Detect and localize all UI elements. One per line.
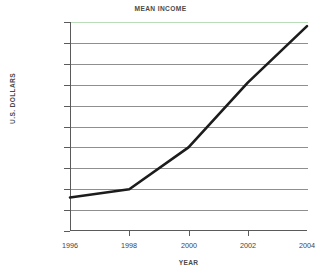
y-tick-mark-165000 [64, 64, 70, 65]
y-tick-mark-145000 [64, 147, 70, 148]
y-tick-mark-155000 [64, 106, 70, 107]
chart-figure: MEAN INCOME U.S. DOLLARS YEAR 125,000130… [0, 0, 321, 280]
x-tick-mark-1998 [129, 231, 130, 236]
line-series-mean-income [70, 26, 307, 197]
x-tick-label-2002: 2002 [227, 241, 268, 250]
y-tick-mark-170000 [64, 43, 70, 44]
x-tick-label-2004: 2004 [286, 241, 321, 250]
x-tick-label-1998: 1998 [109, 241, 150, 250]
x-tick-mark-2000 [189, 231, 190, 236]
y-tick-mark-130000 [64, 210, 70, 211]
y-tick-mark-135000 [64, 189, 70, 190]
x-axis-title: YEAR [84, 258, 293, 267]
x-tick-mark-2002 [248, 231, 249, 236]
x-tick-label-1996: 1996 [49, 241, 90, 250]
y-tick-mark-125000 [64, 231, 70, 232]
x-tick-label-2000: 2000 [168, 241, 209, 250]
y-tick-mark-175000 [64, 22, 70, 23]
y-tick-mark-140000 [64, 168, 70, 169]
y-tick-mark-150000 [64, 127, 70, 128]
caption-strip [0, 273, 321, 280]
y-tick-mark-160000 [64, 85, 70, 86]
data-series-layer [0, 0, 321, 280]
